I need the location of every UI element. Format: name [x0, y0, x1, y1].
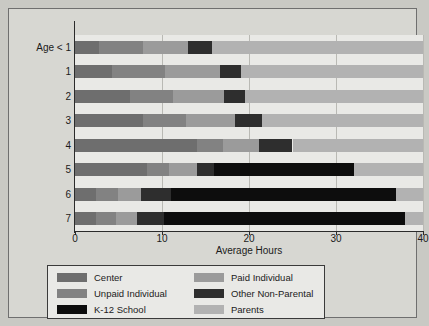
legend-label: Paid Individual [231, 272, 293, 283]
bar-segment [259, 139, 292, 152]
bar-segment [147, 163, 169, 176]
bar-segment [118, 188, 141, 201]
bar-segment [396, 188, 423, 201]
gridline [423, 35, 424, 231]
bar-row [75, 212, 423, 225]
bar-segment [188, 41, 211, 54]
bar-segment [75, 65, 112, 78]
bar-segment [99, 41, 143, 54]
bar-segment [75, 114, 143, 127]
bar-row [75, 65, 423, 78]
chart-legend: CenterPaid IndividualUnpaid IndividualOt… [47, 265, 325, 319]
bar-segment [116, 212, 137, 225]
bar-segment [223, 139, 260, 152]
bar-segment [96, 188, 118, 201]
y-axis-label: 7 [11, 212, 71, 225]
bar-segment [75, 212, 96, 225]
bar-segment [96, 212, 116, 225]
legend-items: CenterPaid IndividualUnpaid IndividualOt… [51, 269, 321, 315]
bar-row [75, 114, 423, 127]
legend-swatch [57, 305, 87, 314]
bar-segment [137, 212, 164, 225]
chart-page: Age < 11234567 010203040 Average Hours C… [0, 0, 429, 326]
legend-swatch [194, 289, 224, 298]
legend-item[interactable]: Unpaid Individual [51, 285, 184, 301]
bar-segment [241, 65, 423, 78]
legend-item[interactable]: K-12 School [51, 301, 184, 317]
bar-segment [143, 114, 187, 127]
y-axis-label: 3 [11, 114, 71, 127]
x-axis-label: 10 [147, 233, 177, 244]
bar-segment [75, 41, 99, 54]
y-axis-labels: Age < 11234567 [9, 35, 71, 231]
legend-label: Other Non-Parental [231, 288, 313, 299]
bar-segment [165, 65, 221, 78]
bar-row [75, 163, 423, 176]
bar-segment [235, 114, 262, 127]
y-axis-label: 6 [11, 188, 71, 201]
bar-segment [169, 163, 197, 176]
bar-row [75, 90, 423, 103]
bar-segment [224, 90, 245, 103]
bar-segment [220, 65, 241, 78]
legend-label: K-12 School [94, 304, 146, 315]
bar-row [75, 41, 423, 54]
bar-segment [75, 90, 130, 103]
bar-segment [262, 114, 423, 127]
bar-segment [354, 163, 423, 176]
bar-segment [197, 139, 223, 152]
bar-segment [245, 90, 423, 103]
x-axis-label: 0 [60, 233, 90, 244]
bar-segment [164, 212, 405, 225]
bar-segment [75, 163, 147, 176]
legend-label: Unpaid Individual [94, 288, 167, 299]
bar-segment [186, 114, 235, 127]
bar-segment [112, 65, 164, 78]
plot-area [75, 35, 423, 231]
bar-segment [197, 163, 214, 176]
y-axis-label: Age < 1 [11, 41, 71, 54]
bar-segment [75, 139, 197, 152]
y-axis-label: 4 [11, 139, 71, 152]
legend-label: Parents [231, 304, 264, 315]
legend-item[interactable]: Paid Individual [188, 269, 321, 285]
bar-segment [143, 41, 188, 54]
chart-plate: Age < 11234567 010203040 Average Hours C… [8, 8, 417, 318]
bar-row [75, 188, 423, 201]
bar-segment [212, 41, 423, 54]
x-axis-title: Average Hours [75, 245, 423, 256]
bar-row [75, 139, 423, 152]
bar-segment [141, 188, 171, 201]
y-axis-label: 2 [11, 90, 71, 103]
y-axis-line [74, 21, 75, 233]
legend-item[interactable]: Center [51, 269, 184, 285]
bar-segment [293, 139, 424, 152]
bar-segment [75, 188, 96, 201]
legend-label: Center [94, 272, 123, 283]
x-axis-label: 40 [408, 233, 429, 244]
bar-segment [214, 163, 354, 176]
legend-swatch [194, 305, 224, 314]
legend-swatch [57, 273, 87, 282]
legend-swatch [194, 273, 224, 282]
legend-item[interactable]: Parents [188, 301, 321, 317]
legend-swatch [57, 289, 87, 298]
y-axis-label: 5 [11, 163, 71, 176]
bar-segment [173, 90, 223, 103]
legend-item[interactable]: Other Non-Parental [188, 285, 321, 301]
bar-segment [405, 212, 423, 225]
bar-segment [171, 188, 396, 201]
x-axis-label: 20 [234, 233, 264, 244]
bar-segment [130, 90, 174, 103]
x-axis-label: 30 [321, 233, 351, 244]
y-axis-label: 1 [11, 65, 71, 78]
